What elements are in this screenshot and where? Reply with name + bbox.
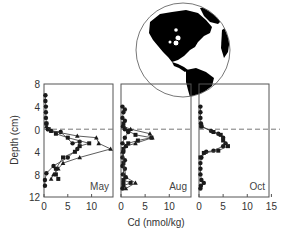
data-point-circle xyxy=(44,110,48,114)
y-tick: 8 xyxy=(34,170,40,181)
data-point-square xyxy=(66,136,70,140)
data-point-triangle xyxy=(49,176,54,180)
panels: 0510May0510Aug051015Oct xyxy=(41,84,280,212)
x-tick: 5 xyxy=(65,201,71,212)
data-point-circle xyxy=(58,130,62,134)
data-point-circle xyxy=(44,116,48,120)
data-point-circle xyxy=(43,178,47,182)
data-point-square xyxy=(221,139,225,143)
y-axis-title: Depth (cm) xyxy=(9,115,20,164)
data-point-circle xyxy=(121,110,125,114)
y-tick: 4 xyxy=(34,102,40,113)
data-point-circle xyxy=(44,104,48,108)
y-tick: 12 xyxy=(29,192,41,203)
x-tick: 10 xyxy=(242,201,254,212)
data-point-square xyxy=(226,144,230,148)
data-point-circle xyxy=(43,99,47,103)
data-point-circle xyxy=(198,104,202,108)
x-tick: 0 xyxy=(41,201,47,212)
panel-oct: 051015Oct xyxy=(196,84,280,212)
data-point-circle xyxy=(198,172,202,176)
data-point-square xyxy=(129,181,133,185)
data-point-triangle xyxy=(133,180,138,184)
y-tick: 0 xyxy=(34,125,40,136)
data-point-square xyxy=(78,144,82,148)
data-point-square xyxy=(61,155,65,159)
x-tick: 5 xyxy=(220,201,226,212)
data-point-square xyxy=(133,133,137,137)
figure: Depth (cm) 8 4 0 4 8 12 0510May0510Aug05… xyxy=(0,0,289,238)
data-point-circle xyxy=(70,141,74,145)
data-point-square xyxy=(198,155,202,159)
x-tick: 5 xyxy=(142,201,148,212)
x-tick: 10 xyxy=(164,201,176,212)
data-point-square xyxy=(199,124,203,128)
data-point-circle xyxy=(123,135,127,139)
data-point-circle xyxy=(198,110,202,114)
series-line xyxy=(45,95,80,185)
data-point-square xyxy=(211,130,215,134)
data-point-circle xyxy=(120,141,124,145)
panel-aug: 0510Aug xyxy=(118,84,191,212)
y-axis: Depth (cm) 8 4 0 4 8 12 xyxy=(9,79,40,203)
x-tick: 0 xyxy=(196,201,202,212)
month-label: Aug xyxy=(169,181,187,192)
data-point-square xyxy=(87,141,91,145)
data-point-square xyxy=(219,133,223,137)
site-marker-icon xyxy=(173,40,179,46)
data-point-square xyxy=(202,151,206,155)
x-tick: 15 xyxy=(266,201,278,212)
data-point-square xyxy=(56,177,60,181)
panel-may: 0510May xyxy=(41,84,113,212)
data-point-triangle xyxy=(96,141,101,145)
x-axis-title: Cd (nmol/kg) xyxy=(127,217,184,228)
month-label: May xyxy=(90,181,109,192)
x-tick: 0 xyxy=(118,201,124,212)
month-label: Oct xyxy=(249,181,265,192)
data-point-circle xyxy=(198,161,202,165)
data-point-circle xyxy=(43,184,47,188)
data-point-circle xyxy=(211,148,215,152)
data-point-circle xyxy=(44,171,48,175)
y-tick: 4 xyxy=(34,147,40,158)
data-point-circle xyxy=(198,167,202,171)
y-tick: 8 xyxy=(34,79,40,90)
data-point-circle xyxy=(43,93,47,97)
data-point-circle xyxy=(198,186,202,190)
x-tick: 10 xyxy=(86,201,98,212)
data-point-square xyxy=(73,150,77,154)
data-point-square xyxy=(216,149,220,153)
data-point-square xyxy=(121,184,125,188)
data-point-circle xyxy=(198,116,202,120)
